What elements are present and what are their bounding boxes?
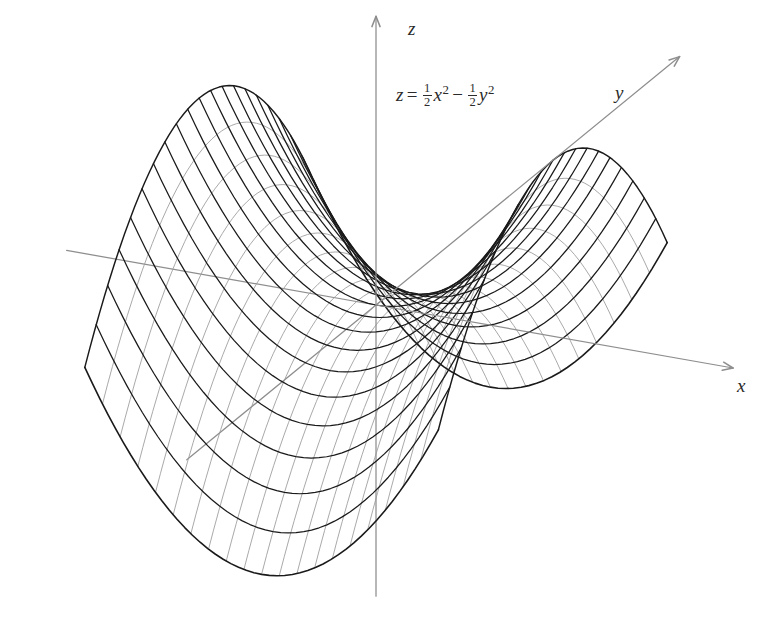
axis-label-z: z [408, 18, 415, 40]
equation-lhs: z [396, 84, 404, 105]
equation-operator: − [449, 84, 466, 105]
surface-plot [0, 0, 767, 623]
axis-label-y: y [615, 82, 623, 104]
coefficient-one-half-x: 12 [423, 82, 432, 109]
equation-relation: = [404, 84, 421, 105]
figure-canvas: z=12x2−12y2 z y x [0, 0, 767, 623]
equation-term2-var: y [479, 84, 488, 105]
axis-label-x: x [737, 375, 745, 397]
equation-term2-power: 2 [488, 82, 495, 97]
equation-label: z=12x2−12y2 [396, 82, 495, 110]
coefficient-one-half-y: 12 [468, 82, 477, 109]
